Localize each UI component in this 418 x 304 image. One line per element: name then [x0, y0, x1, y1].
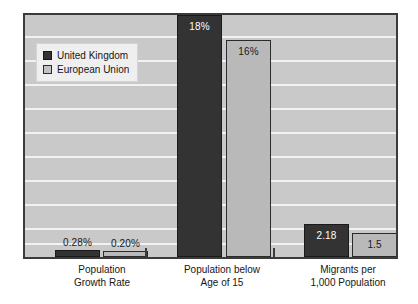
- bar-uk-population-growth-rate[interactable]: 0.28%: [55, 250, 100, 257]
- legend-label: European Union: [57, 64, 129, 75]
- x-axis-label-line2: Growth Rate: [37, 276, 167, 289]
- x-axis-label-population-below-age-15: Population below Age of 15: [157, 263, 287, 289]
- x-axis-label-migrants-per-1000-population: Migrants per 1,000 Population: [283, 263, 413, 289]
- x-axis-label-line1: Migrants per: [320, 264, 376, 275]
- legend-swatch-icon: [43, 65, 52, 74]
- x-axis-label-line2: 1,000 Population: [283, 276, 413, 289]
- bar-uk-population-below-age-15[interactable]: 18%: [177, 15, 222, 257]
- bar-value-label: 0.20%: [104, 238, 147, 249]
- bar-value-label: 2.18: [305, 230, 348, 241]
- bar-value-label: 16%: [227, 46, 270, 57]
- x-axis-labels: Population Growth Rate Population below …: [23, 263, 398, 301]
- x-axis-label-line1: Population below: [184, 264, 260, 275]
- x-axis-label-line2: Age of 15: [157, 276, 287, 289]
- chart-legend: United Kingdom European Union: [36, 43, 138, 82]
- plot-area: 0.28% 0.20% 18% 16% 2.18 1.5: [23, 13, 398, 259]
- x-axis-label-population-growth-rate: Population Growth Rate: [37, 263, 167, 289]
- bar-eu-population-below-age-15[interactable]: 16%: [226, 40, 271, 257]
- legend-item-united-kingdom[interactable]: United Kingdom: [43, 49, 129, 62]
- bar-uk-migrants-per-1000[interactable]: 2.18: [304, 224, 349, 257]
- axis-tick: [145, 248, 147, 257]
- axis-tick: [273, 248, 275, 257]
- x-axis-label-line1: Population: [78, 264, 125, 275]
- bar-eu-population-growth-rate[interactable]: 0.20%: [103, 251, 148, 257]
- bar-chart: 0.28% 0.20% 18% 16% 2.18 1.5: [0, 0, 418, 304]
- bar-value-label: 0.28%: [56, 237, 99, 248]
- legend-swatch-icon: [43, 51, 52, 60]
- legend-label: United Kingdom: [57, 50, 128, 61]
- bar-eu-migrants-per-1000[interactable]: 1.5: [352, 233, 397, 257]
- bar-value-label: 18%: [178, 21, 221, 32]
- legend-item-european-union[interactable]: European Union: [43, 63, 129, 76]
- bar-value-label: 1.5: [353, 239, 396, 250]
